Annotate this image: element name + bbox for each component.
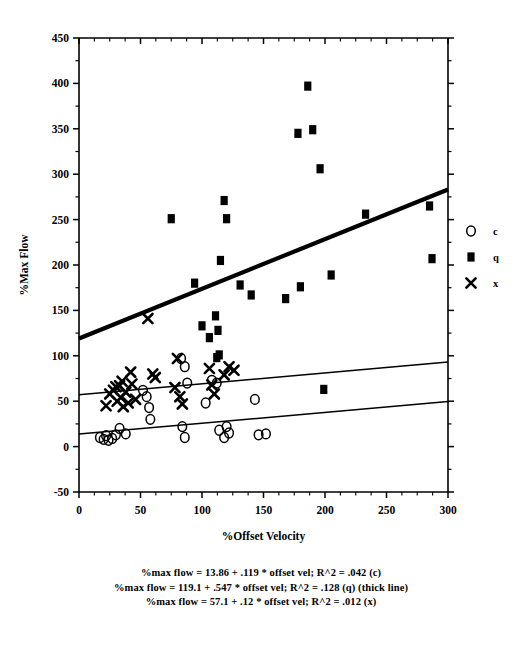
chart-legend: cqx — [466, 226, 499, 289]
y-tick-label: 100 — [52, 350, 70, 362]
data-point — [294, 129, 301, 138]
plot-canvas: -500501001502002503003504004500501001502… — [0, 0, 522, 647]
data-point — [126, 368, 135, 377]
data-point — [151, 373, 160, 382]
data-point — [221, 196, 228, 205]
chart-caption: %max flow = 13.86 + .119 * offset vel; R… — [0, 566, 522, 610]
data-point — [210, 389, 219, 398]
data-point — [191, 279, 198, 288]
y-tick-label: 50 — [58, 395, 70, 407]
caption-line-2: %max flow = 119.1 + .547 * offset vel; R… — [0, 581, 522, 596]
data-point — [145, 403, 154, 413]
caption-line-3: %max flow = 57.1 + .12 * offset vel; R^2… — [0, 595, 522, 610]
caption-line-1: %max flow = 13.86 + .119 * offset vel; R… — [0, 566, 522, 581]
y-tick-label: 450 — [52, 32, 70, 44]
legend-marker-q — [467, 252, 474, 261]
y-tick-label: 350 — [52, 123, 70, 135]
x-tick-label: 250 — [378, 504, 396, 516]
y-tick-label: 300 — [52, 168, 70, 180]
data-point — [143, 314, 152, 323]
data-point — [222, 422, 231, 432]
data-point — [428, 254, 435, 263]
legend-label-q: q — [493, 252, 499, 263]
x-axis-title: %Offset Velocity — [222, 530, 306, 543]
data-point — [217, 256, 224, 265]
data-point — [146, 414, 155, 424]
y-tick-label: 200 — [52, 259, 70, 271]
data-point — [214, 326, 221, 335]
data-point — [309, 125, 316, 134]
y-tick-label: 0 — [63, 441, 69, 453]
data-point — [168, 214, 175, 223]
data-point — [178, 422, 187, 432]
data-point — [127, 379, 136, 388]
data-point — [237, 280, 244, 289]
data-point — [328, 270, 335, 279]
data-point — [320, 385, 327, 394]
data-point — [206, 333, 213, 342]
legend-marker-x — [466, 278, 475, 287]
data-point — [205, 364, 214, 373]
x-tick-label: 100 — [193, 504, 211, 516]
data-point — [183, 378, 192, 388]
data-point — [248, 290, 255, 299]
x-tick-label: 0 — [76, 504, 82, 516]
legend-marker-c — [467, 226, 476, 236]
legend-label-c: c — [493, 226, 498, 237]
y-tick-label: 150 — [52, 304, 70, 316]
data-point — [304, 82, 311, 91]
data-point — [207, 380, 216, 389]
data-point — [362, 210, 369, 219]
regression-line-q — [79, 189, 448, 338]
series-q — [168, 82, 436, 394]
data-point — [216, 350, 223, 359]
x-tick-label: 300 — [439, 504, 457, 516]
data-point — [316, 164, 323, 173]
data-point — [229, 366, 238, 375]
data-point — [282, 294, 289, 303]
y-axis-title: %Max Flow — [18, 234, 30, 296]
y-tick-label: -50 — [54, 486, 70, 498]
data-point — [223, 214, 230, 223]
scatter-chart: -500501001502002503003504004500501001502… — [0, 0, 522, 647]
data-point — [101, 401, 110, 410]
data-point — [212, 311, 219, 320]
data-point — [201, 398, 210, 408]
legend-label-x: x — [493, 278, 499, 289]
data-point — [426, 201, 433, 210]
data-point — [251, 394, 260, 404]
x-tick-label: 50 — [135, 504, 147, 516]
data-point — [297, 282, 304, 291]
y-tick-label: 400 — [52, 77, 70, 89]
y-tick-label: 250 — [52, 214, 70, 226]
x-tick-label: 150 — [255, 504, 273, 516]
data-point — [180, 433, 189, 443]
data-point — [121, 388, 130, 397]
data-point — [198, 321, 205, 330]
x-tick-label: 200 — [316, 504, 334, 516]
